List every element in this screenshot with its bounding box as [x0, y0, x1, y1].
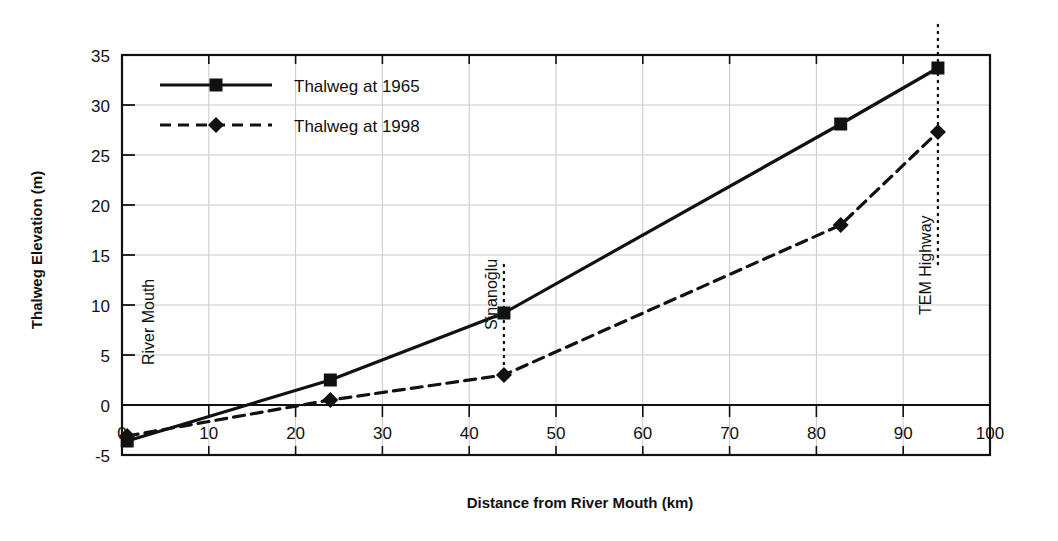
legend-label-1: Thalweg at 1965 — [294, 77, 420, 96]
series-marker-1 — [931, 62, 944, 75]
x-tick-label: 10 — [199, 424, 218, 443]
x-tick-label: 20 — [286, 424, 305, 443]
x-tick-label: 60 — [633, 424, 652, 443]
legend-label-2: Thalweg at 1998 — [294, 117, 420, 136]
y-tick-label: 0 — [101, 397, 110, 416]
y-tick-label: 5 — [101, 347, 110, 366]
y-axis-title: Thalweg Elevation (m) — [28, 171, 45, 329]
annotation-label: River Mouth — [140, 279, 157, 365]
y-tick-label: 20 — [91, 197, 110, 216]
series-marker-1 — [834, 118, 847, 131]
x-tick-label: 90 — [894, 424, 913, 443]
chart-figure: 0102030405060708090100 -505101520253035 … — [0, 0, 1058, 541]
annotation-label: Sinanoğlu — [483, 259, 500, 330]
x-tick-label: 50 — [547, 424, 566, 443]
x-tick-label: 30 — [373, 424, 392, 443]
x-tick-label: 100 — [976, 424, 1004, 443]
legend-marker-1 — [210, 79, 223, 92]
chart-background — [0, 0, 1058, 541]
y-tick-label: 25 — [91, 147, 110, 166]
y-tick-label: -5 — [95, 447, 110, 466]
annotation-label: TEM Highway — [917, 215, 934, 315]
x-tick-label: 70 — [720, 424, 739, 443]
x-tick-label: 80 — [807, 424, 826, 443]
x-tick-label: 40 — [460, 424, 479, 443]
y-tick-label: 15 — [91, 247, 110, 266]
y-tick-label: 30 — [91, 97, 110, 116]
series-marker-1 — [324, 374, 337, 387]
y-tick-label: 35 — [91, 47, 110, 66]
y-tick-label: 10 — [91, 297, 110, 316]
thalweg-profile-chart: 0102030405060708090100 -505101520253035 … — [0, 0, 1058, 541]
x-axis-title: Distance from River Mouth (km) — [467, 494, 694, 511]
